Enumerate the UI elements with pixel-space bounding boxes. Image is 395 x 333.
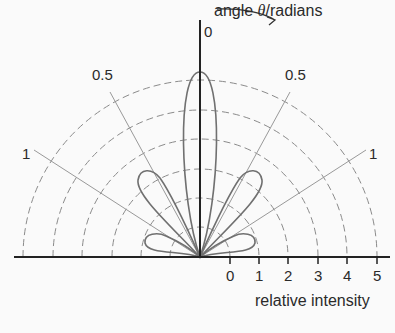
radial-tick-4: 4 — [343, 268, 351, 283]
radial-tick-5: 5 — [373, 268, 381, 283]
angle-tick-pos-1: 1 — [369, 146, 377, 161]
radial-tick-1: 1 — [255, 268, 263, 283]
angle-tick-neg-0.5: 0.5 — [92, 67, 113, 82]
angle-tick-0: 0 — [204, 24, 212, 39]
radial-tick-2: 2 — [284, 268, 292, 283]
polar-diagram — [0, 0, 395, 333]
angle-axis-title: angle θ/radians — [214, 3, 322, 19]
radial-tick-3: 3 — [314, 268, 322, 283]
angle-tick-neg-1: 1 — [22, 146, 30, 161]
radial-ticks — [230, 257, 377, 264]
radial-axis-title: relative intensity — [255, 293, 370, 309]
radial-tick-0: 0 — [226, 268, 234, 283]
angle-tick-pos-0.5: 0.5 — [285, 67, 306, 82]
